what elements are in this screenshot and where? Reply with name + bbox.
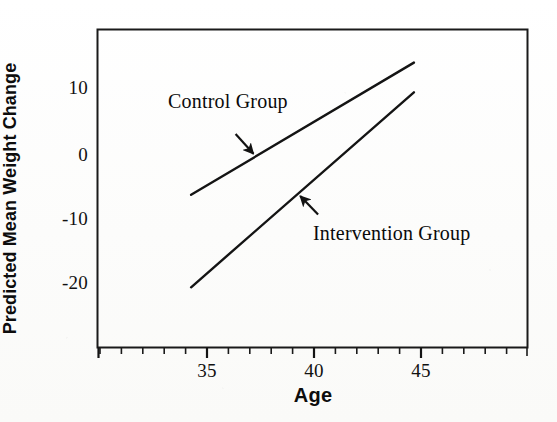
x-tick-label-35: 35 <box>197 360 216 382</box>
x-axis-major-ticks <box>207 348 421 359</box>
y-tick-label-0: 0 <box>46 144 88 166</box>
x-tick-label-45: 45 <box>411 360 430 382</box>
intervention-group-label: Intervention Group <box>313 222 470 245</box>
y-tick-label-10: 10 <box>46 77 88 99</box>
series-line-control-group <box>191 63 414 195</box>
x-tick-label-40: 40 <box>304 360 323 382</box>
control-group-annotation-arrow <box>236 134 254 154</box>
y-axis-title: Predicted Mean Weight Change <box>0 63 21 335</box>
x-axis-title: Age <box>294 384 333 407</box>
y-tick-label-minus-20: -20 <box>40 272 88 294</box>
intervention-group-annotation-arrow <box>300 196 318 215</box>
series-line-intervention-group <box>191 92 414 287</box>
y-tick-label-minus-10: -10 <box>40 208 88 230</box>
figure-root: 35 40 45 10 0 -10 -20 Age Predicted Mean… <box>0 0 557 422</box>
plot-frame <box>98 30 528 348</box>
control-group-label: Control Group <box>168 90 288 113</box>
